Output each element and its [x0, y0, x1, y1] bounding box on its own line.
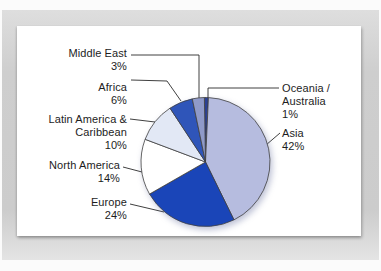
label-middle-east-name: Middle East [22, 47, 127, 60]
label-africa-value: 6% [22, 94, 127, 107]
label-asia-name: Asia [282, 127, 357, 140]
leader-line-latin-america-caribbean [130, 119, 155, 122]
label-oceania-australia-value: 1% [282, 108, 357, 121]
label-europe: Europe 24% [22, 196, 127, 222]
label-latin-america-caribbean: Latin America & Caribbean 10% [22, 113, 127, 152]
label-asia: Asia 42% [282, 127, 357, 153]
label-asia-value: 42% [282, 140, 357, 153]
label-north-america-value: 14% [22, 172, 120, 185]
label-latin-america-caribbean-name: Latin America & Caribbean [22, 113, 127, 139]
leader-line-north-america [123, 167, 142, 172]
leader-line-africa [131, 80, 181, 101]
pie-slices [141, 98, 270, 227]
label-oceania-australia: Oceania / Australia 1% [282, 82, 357, 121]
label-north-america: North America 14% [22, 159, 120, 185]
label-north-america-name: North America [22, 159, 120, 172]
chart-card: Middle East 3% Africa 6% Latin America &… [17, 26, 361, 236]
label-europe-value: 24% [22, 209, 127, 222]
label-europe-name: Europe [22, 196, 127, 209]
label-latin-america-caribbean-value: 10% [22, 139, 127, 152]
leader-line-oceania-australia [208, 88, 279, 98]
leader-line-asia [266, 133, 280, 145]
leader-line-middle-east [131, 55, 199, 99]
label-middle-east: Middle East 3% [22, 47, 127, 73]
label-middle-east-value: 3% [22, 60, 127, 73]
label-africa: Africa 6% [22, 81, 127, 107]
label-oceania-australia-name: Oceania / Australia [282, 82, 357, 108]
label-africa-name: Africa [22, 81, 127, 94]
